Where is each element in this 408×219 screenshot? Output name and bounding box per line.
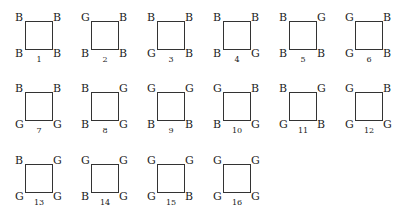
corner-label-tl: G: [345, 83, 354, 94]
corner-label-tr: B: [53, 12, 61, 23]
configuration-number: 1: [30, 55, 48, 64]
corner-label-bl: B: [81, 191, 89, 202]
corner-label-tr: B: [53, 83, 61, 94]
corner-label-br: B: [53, 48, 61, 59]
corner-label-bl: B: [213, 48, 221, 59]
square: [289, 21, 317, 50]
corner-label-br: G: [251, 191, 260, 202]
corner-label-bl: B: [213, 119, 221, 130]
configuration-13: BGGG13: [10, 148, 76, 218]
configuration-12: GBGG12: [340, 76, 406, 146]
corner-label-br: B: [119, 48, 127, 59]
square: [91, 92, 119, 121]
square: [25, 21, 53, 50]
corner-label-bl: G: [147, 191, 156, 202]
corner-label-bl: G: [345, 48, 354, 59]
corner-label-bl: G: [15, 191, 24, 202]
corner-label-tl: G: [147, 83, 156, 94]
configuration-number: 2: [96, 55, 114, 64]
square: [91, 21, 119, 50]
configuration-10: GBBG10: [208, 76, 274, 146]
corner-label-bl: G: [213, 191, 222, 202]
corner-label-tl: G: [81, 12, 90, 23]
corner-label-bl: G: [147, 48, 156, 59]
square: [223, 92, 251, 121]
square: [355, 92, 383, 121]
configuration-number: 11: [294, 126, 312, 135]
corner-label-tl: B: [15, 155, 23, 166]
corner-label-tl: G: [147, 155, 156, 166]
configuration-14: GGBG14: [76, 148, 142, 218]
configuration-number: 10: [228, 126, 246, 135]
corner-label-bl: B: [279, 48, 287, 59]
configuration-number: 6: [360, 55, 378, 64]
corner-label-br: G: [53, 191, 62, 202]
configuration-3: BBGB3: [142, 5, 208, 75]
corner-label-br: G: [53, 119, 62, 130]
configuration-2: GBBB2: [76, 5, 142, 75]
corner-label-br: G: [251, 48, 260, 59]
corner-label-tr: G: [53, 155, 62, 166]
corner-label-tl: B: [279, 83, 287, 94]
configuration-5: BGBB5: [274, 5, 340, 75]
configuration-number: 9: [162, 126, 180, 135]
configuration-number: 8: [96, 126, 114, 135]
configuration-8: BGBG8: [76, 76, 142, 146]
configuration-number: 16: [228, 198, 246, 207]
corner-label-br: B: [185, 48, 193, 59]
corner-label-tl: G: [213, 155, 222, 166]
configuration-16: GGGG16: [208, 148, 274, 218]
corner-label-tl: G: [213, 83, 222, 94]
configuration-number: 3: [162, 55, 180, 64]
corner-label-tr: B: [119, 12, 127, 23]
corner-label-br: B: [185, 191, 193, 202]
corner-label-br: G: [383, 119, 392, 130]
corner-label-bl: B: [81, 48, 89, 59]
square: [157, 21, 185, 50]
corner-label-br: G: [119, 119, 128, 130]
corner-label-bl: B: [15, 48, 23, 59]
corner-label-bl: B: [81, 119, 89, 130]
corner-label-tr: G: [317, 12, 326, 23]
square: [157, 164, 185, 193]
corner-label-br: B: [317, 48, 325, 59]
square: [157, 92, 185, 121]
corner-label-br: B: [185, 119, 193, 130]
configuration-7: BBGG7: [10, 76, 76, 146]
square: [223, 21, 251, 50]
corner-label-tl: G: [345, 12, 354, 23]
configuration-1: BBBB1: [10, 5, 76, 75]
configuration-number: 14: [96, 198, 114, 207]
corner-label-br: G: [119, 191, 128, 202]
corner-label-tr: G: [185, 83, 194, 94]
corner-label-bl: G: [15, 119, 24, 130]
corner-label-tl: G: [81, 155, 90, 166]
corner-label-tr: B: [251, 12, 259, 23]
configuration-15: GGGB15: [142, 148, 208, 218]
configuration-11: BGGB11: [274, 76, 340, 146]
corner-label-tl: B: [15, 12, 23, 23]
square: [223, 164, 251, 193]
configuration-number: 4: [228, 55, 246, 64]
square: [355, 21, 383, 50]
configuration-6: GBGB6: [340, 5, 406, 75]
corner-label-tl: B: [15, 83, 23, 94]
corner-label-tr: B: [383, 12, 391, 23]
corner-label-tr: B: [251, 83, 259, 94]
square: [289, 92, 317, 121]
corner-label-tl: B: [147, 12, 155, 23]
configuration-4: BBBG4: [208, 5, 274, 75]
square: [25, 164, 53, 193]
square: [91, 164, 119, 193]
corner-label-bl: B: [147, 119, 155, 130]
corner-label-tr: G: [317, 83, 326, 94]
corner-label-tr: G: [251, 155, 260, 166]
configuration-number: 7: [30, 126, 48, 135]
corner-label-tr: B: [185, 12, 193, 23]
corner-label-bl: G: [279, 119, 288, 130]
corner-label-br: B: [383, 48, 391, 59]
corner-label-tr: G: [119, 155, 128, 166]
configuration-number: 15: [162, 198, 180, 207]
corner-label-bl: G: [345, 119, 354, 130]
corner-label-tl: B: [81, 83, 89, 94]
